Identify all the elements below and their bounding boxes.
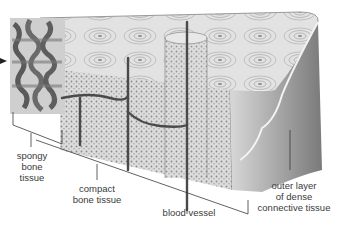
label-line: connective tissue: [250, 202, 338, 213]
label-compact-bone-tissue: compact bone tissue: [60, 183, 134, 205]
label-line: bone: [12, 161, 52, 172]
label-line: spongy: [12, 150, 52, 161]
label-line: of dense: [250, 191, 338, 202]
label-line: compact: [60, 183, 134, 194]
spongy-bone-block: [10, 18, 65, 114]
label-spongy-bone-tissue: spongy bone tissue: [12, 150, 52, 183]
label-outer-layer: outer layer of dense connective tissue: [250, 180, 338, 213]
arrow-right-icon: [0, 58, 7, 64]
bone-tissue-diagram: spongy bone tissue compact bone tissue b…: [0, 0, 343, 229]
label-blood-vessel: blood vessel: [156, 207, 222, 218]
label-line: tissue: [12, 172, 52, 183]
label-line: blood vessel: [156, 207, 222, 218]
label-line: bone tissue: [60, 194, 134, 205]
label-line: outer layer: [250, 180, 338, 191]
